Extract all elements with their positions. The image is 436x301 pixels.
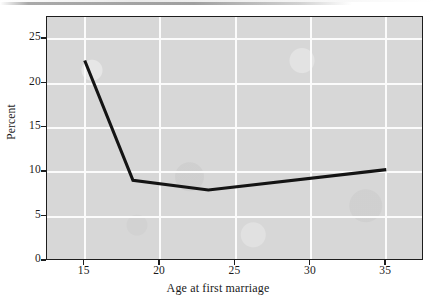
y-tick-mark bbox=[41, 170, 46, 172]
data-series-line bbox=[47, 17, 423, 260]
y-tick-mark bbox=[41, 82, 46, 84]
scan-artifact-edge bbox=[0, 2, 352, 5]
y-tick-mark bbox=[41, 259, 46, 261]
y-axis-title: Percent bbox=[5, 89, 17, 155]
x-axis-title: Age at first marriage bbox=[0, 281, 436, 296]
y-axis-title-wrap: Percent bbox=[2, 0, 20, 301]
y-tick-mark bbox=[41, 215, 46, 217]
x-tick-label: 25 bbox=[215, 264, 255, 276]
x-tick-label: 30 bbox=[290, 264, 330, 276]
y-tick-mark bbox=[41, 37, 46, 39]
plot-area bbox=[46, 16, 423, 260]
figure-canvas: 0510152025 1520253035 Percent Age at fir… bbox=[0, 0, 436, 301]
x-tick-label: 15 bbox=[64, 264, 104, 276]
x-tick-label: 20 bbox=[139, 264, 179, 276]
x-tick-label: 35 bbox=[365, 264, 405, 276]
y-tick-mark bbox=[41, 126, 46, 128]
